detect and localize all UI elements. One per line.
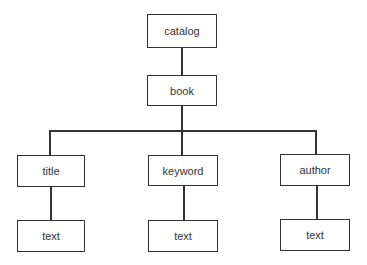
node-title-label: title [42, 165, 59, 177]
node-title: title [17, 155, 85, 187]
node-title-text-label: text [42, 230, 60, 242]
node-catalog: catalog [147, 14, 217, 48]
node-keyword-text-label: text [174, 230, 192, 242]
node-keyword-text: text [148, 220, 218, 252]
node-author-text-label: text [306, 229, 324, 241]
node-catalog-label: catalog [164, 25, 199, 37]
edge-horizontal-bus [49, 130, 317, 132]
node-book: book [147, 75, 217, 106]
node-author: author [280, 154, 350, 186]
edge-keyword-text [183, 186, 185, 220]
edge-bus-author [315, 130, 317, 155]
node-title-text: text [17, 220, 85, 252]
edge-bus-title [49, 130, 51, 155]
node-author-label: author [299, 164, 330, 176]
node-keyword-label: keyword [163, 165, 204, 177]
node-author-text: text [280, 219, 350, 251]
edge-author-text [316, 186, 318, 219]
edge-catalog-book [181, 48, 183, 75]
node-book-label: book [170, 85, 194, 97]
edge-title-text [50, 187, 52, 220]
node-keyword: keyword [148, 155, 218, 186]
